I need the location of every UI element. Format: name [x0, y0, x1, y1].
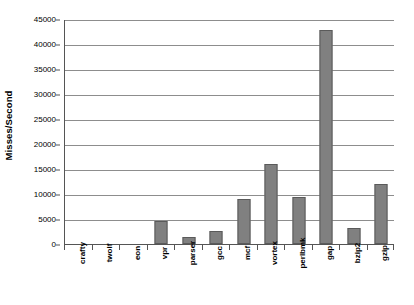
- bars-layer: [65, 20, 394, 244]
- bar: [155, 221, 168, 244]
- x-axis-tick-mark: [257, 245, 258, 250]
- y-axis-tick-mark: [56, 45, 60, 46]
- bar: [320, 30, 333, 244]
- x-axis-tick-labels: craftytwolfeonvprparsergccmcfvortexperlb…: [64, 251, 394, 305]
- bar-slot: [120, 20, 148, 244]
- x-axis-tick-label-text: vortex: [270, 241, 279, 265]
- x-axis-tick-mark: [92, 245, 93, 250]
- y-axis-tick-label: 10000: [34, 191, 56, 199]
- x-axis-tick-label-text: mcf: [243, 246, 252, 260]
- x-axis-tick-label: crafty: [64, 251, 92, 303]
- x-axis-tick-label-text: twolf: [105, 244, 114, 263]
- y-axis-tick-mark: [56, 120, 60, 121]
- bar-slot: [93, 20, 121, 244]
- x-axis-tick-mark: [393, 245, 394, 250]
- bar-slot: [175, 20, 203, 244]
- bar-slot: [65, 20, 93, 244]
- x-axis-tick-mark: [119, 245, 120, 250]
- bar-slot: [148, 20, 176, 244]
- y-axis-title: Misses/Second: [0, 0, 18, 250]
- y-axis-tick-label: 25000: [34, 116, 56, 124]
- x-axis-tick-label-text: gzip: [380, 245, 389, 261]
- x-axis-tick-mark: [174, 245, 175, 250]
- x-axis-tick-mark: [339, 245, 340, 250]
- x-axis-tick-mark: [229, 245, 230, 250]
- x-axis-tick-label: twolf: [92, 251, 120, 303]
- y-axis-tick-mark: [56, 195, 60, 196]
- x-axis-tick-label: vpr: [147, 251, 175, 303]
- bar-slot: [368, 20, 396, 244]
- bar: [210, 231, 223, 244]
- x-axis-tick-label-text: gap: [325, 246, 334, 260]
- y-axis-tick-label: 5000: [38, 216, 56, 224]
- y-axis-tick-label: 35000: [34, 66, 56, 74]
- plot-area: [64, 20, 394, 245]
- y-axis-tick-mark: [56, 145, 60, 146]
- x-axis-tick-label-text: parser: [188, 241, 197, 265]
- bar-slot: [258, 20, 286, 244]
- x-axis-tick-label: gcc: [202, 251, 230, 303]
- x-axis-tick-mark: [312, 245, 313, 250]
- y-axis-tick-mark: [56, 245, 60, 246]
- x-axis-tick-mark: [147, 245, 148, 250]
- x-axis-tick-label: parser: [174, 251, 202, 303]
- y-axis-tick-labels: 0500010000150002000025000300003500040000…: [18, 20, 60, 245]
- bar-chart: Misses/Second 05000100001500020000250003…: [0, 0, 414, 305]
- x-axis-tick-label: gap: [312, 251, 340, 303]
- x-axis-tick-mark: [367, 245, 368, 250]
- x-axis-tick-mark: [284, 245, 285, 250]
- y-axis-tick-label: 45000: [34, 16, 56, 24]
- y-axis-tick-mark: [56, 95, 60, 96]
- y-axis-tick-label: 15000: [34, 166, 56, 174]
- x-axis-tick-label: perlbmk: [284, 251, 312, 303]
- x-axis-tick-label-text: gcc: [215, 246, 224, 260]
- y-axis-tick-mark: [56, 70, 60, 71]
- x-axis-tick-label: vortex: [257, 251, 285, 303]
- bar-slot: [203, 20, 231, 244]
- bar-slot: [285, 20, 313, 244]
- bar-slot: [230, 20, 258, 244]
- y-axis-title-label: Misses/Second: [4, 90, 15, 160]
- x-axis-tick-label: mcf: [229, 251, 257, 303]
- x-axis-tick-mark: [64, 245, 65, 250]
- x-axis-tick-label-text: perlbmk: [298, 237, 307, 268]
- bar: [265, 164, 278, 244]
- bar-slot: [313, 20, 341, 244]
- x-axis-tick-label: eon: [119, 251, 147, 303]
- y-axis-tick-mark: [56, 220, 60, 221]
- x-axis-tick-label-text: eon: [133, 246, 142, 260]
- x-axis-tick-label-text: crafty: [78, 242, 87, 264]
- y-axis-tick-label: 40000: [34, 41, 56, 49]
- bar-slot: [340, 20, 368, 244]
- x-axis-tick-label-text: bzip2: [353, 243, 362, 263]
- x-axis-tick-mark: [202, 245, 203, 250]
- y-axis-tick-mark: [56, 170, 60, 171]
- y-axis-tick-mark: [56, 20, 60, 21]
- x-axis-tick-label-text: vpr: [160, 247, 169, 259]
- y-axis-tick-label: 20000: [34, 141, 56, 149]
- x-axis-tick-label: gzip: [367, 251, 395, 303]
- y-axis-tick-label: 30000: [34, 91, 56, 99]
- bar: [237, 199, 250, 244]
- bar: [347, 228, 360, 244]
- x-axis-tick-label: bzip2: [339, 251, 367, 303]
- bar: [375, 184, 388, 244]
